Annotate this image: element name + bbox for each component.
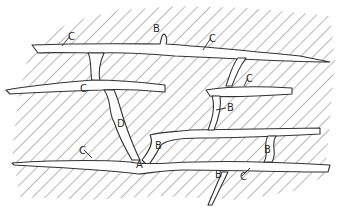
label-c-mid-right: C	[246, 73, 253, 84]
label-a: A	[136, 159, 143, 170]
label-c-bottom-right: C	[240, 171, 247, 182]
label-c-top-right: C	[209, 33, 216, 44]
label-b-junction: B	[155, 140, 162, 151]
label-d: D	[117, 118, 125, 129]
hatched-rock-mass	[0, 0, 341, 207]
label-b-mid-right: B	[227, 102, 234, 113]
label-b-top: B	[153, 23, 160, 34]
label-c-top-left: C	[68, 31, 75, 42]
label-c-second-left: C	[80, 83, 87, 94]
channel-network-diagram: A B B B B B C C C C C C D	[0, 0, 341, 207]
label-c-bottom-left: C	[79, 145, 86, 156]
label-b-bottom: B	[215, 169, 222, 180]
right-middle-channel	[206, 87, 292, 97]
label-b-lower-right: B	[264, 144, 271, 155]
